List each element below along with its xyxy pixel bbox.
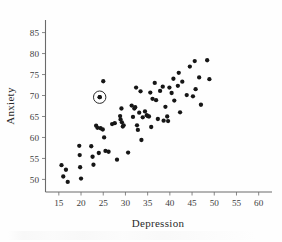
x-tick-label: 50: [210, 198, 220, 208]
scatter-point: [207, 77, 211, 81]
scatter-point: [77, 144, 81, 148]
scatter-point: [185, 93, 189, 97]
x-tick-label: 60: [254, 198, 264, 208]
annotation-markers: [93, 91, 105, 103]
y-axis-title: Anxiety: [4, 87, 16, 125]
scatter-point: [143, 109, 147, 113]
scatter-plot-figure: 5055606570758085 15202530354045505560 De…: [0, 0, 282, 242]
x-tick-label: 45: [187, 198, 197, 208]
scatter-point: [59, 163, 63, 167]
scatter-point: [135, 123, 139, 127]
x-tick-label: 40: [165, 198, 175, 208]
scatter-point: [161, 85, 165, 89]
scatter-point: [172, 98, 176, 102]
x-tick-label: 25: [99, 198, 109, 208]
y-tick-label: 50: [30, 175, 40, 185]
x-tick-label: 55: [232, 198, 242, 208]
y-tick-label: 65: [30, 112, 40, 122]
y-tick-label: 60: [30, 133, 40, 143]
scatter-point: [158, 89, 162, 93]
scatter-point: [154, 98, 158, 102]
x-tick-label: 35: [143, 198, 153, 208]
scatter-point: [64, 168, 68, 172]
scatter-point: [89, 144, 93, 148]
y-tick-label: 75: [30, 70, 40, 80]
scatter-point: [178, 110, 182, 114]
scatter-point: [78, 153, 82, 157]
figure-page: 5055606570758085 15202530354045505560 De…: [0, 0, 282, 242]
scatter-point: [101, 79, 105, 83]
scatter-point: [147, 114, 151, 118]
scatter-point: [167, 85, 171, 89]
scatter-point: [79, 176, 83, 180]
data-points: [59, 58, 211, 184]
y-tick-label: 80: [30, 49, 40, 59]
scatter-point: [171, 77, 175, 81]
scatter-point: [169, 91, 173, 95]
scatter-point: [126, 150, 130, 154]
chart-canvas: 5055606570758085 15202530354045505560 De…: [0, 0, 282, 242]
scatter-point: [115, 158, 119, 162]
scatter-point: [138, 89, 142, 93]
scatter-point: [90, 155, 94, 159]
scatter-point: [119, 106, 123, 110]
highlighted-scatter-point: [98, 95, 102, 99]
scatter-point: [149, 125, 153, 129]
y-axis-ticks: 5055606570758085: [30, 28, 46, 185]
scatter-point: [133, 105, 137, 109]
scatter-point: [191, 94, 195, 98]
scatter-point: [156, 117, 160, 121]
scatter-point: [113, 121, 117, 125]
x-tick-label: 30: [121, 198, 131, 208]
scatter-point: [177, 71, 181, 75]
scatter-point: [91, 163, 95, 167]
scatter-point: [78, 165, 82, 169]
y-tick-label: 85: [30, 28, 40, 38]
scatter-point: [122, 123, 126, 127]
scatter-point: [139, 138, 143, 142]
scatter-point: [106, 150, 110, 154]
scatter-point: [193, 59, 197, 63]
scatter-point: [199, 103, 203, 107]
scatter-point: [165, 114, 169, 118]
x-tick-label: 20: [76, 198, 86, 208]
scatter-point: [166, 119, 170, 123]
scatter-point: [66, 180, 70, 184]
scatter-point: [197, 75, 201, 79]
scatter-point: [193, 87, 197, 91]
x-tick-label: 15: [54, 198, 64, 208]
scatter-point: [161, 119, 165, 123]
x-axis-title: Depression: [132, 217, 185, 229]
scatter-point: [97, 151, 101, 155]
y-tick-label: 55: [30, 154, 40, 164]
scatter-point: [102, 135, 106, 139]
scatter-point: [148, 90, 152, 94]
scatter-point: [131, 115, 135, 119]
scatter-point: [176, 84, 180, 88]
scatter-point: [141, 115, 145, 119]
scatter-point: [137, 111, 141, 115]
scatter-point: [101, 127, 105, 131]
scatter-point: [134, 85, 138, 89]
scatter-point: [61, 174, 65, 178]
scatter-point: [153, 81, 157, 85]
scatter-point: [163, 105, 167, 109]
y-tick-label: 70: [30, 91, 40, 101]
scatter-point: [180, 80, 184, 84]
scatter-point: [188, 64, 192, 68]
scatter-point: [205, 58, 209, 62]
x-axis-ticks: 15202530354045505560: [54, 192, 263, 208]
scatter-point: [136, 128, 140, 132]
